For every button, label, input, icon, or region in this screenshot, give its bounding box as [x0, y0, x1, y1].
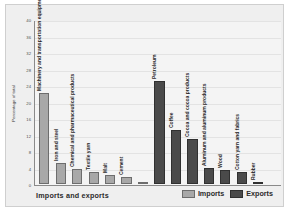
bar-category-label: Cocoa and cocoa products — [185, 72, 190, 136]
y-axis-tick-label: 16 — [26, 118, 31, 122]
bar[interactable] — [154, 81, 164, 184]
chart-plate: Percentage of total 0481216202428323640 … — [5, 4, 284, 207]
y-axis-tick-label: 36 — [26, 35, 31, 39]
y-axis-tick-label: 0 — [29, 184, 31, 188]
bar[interactable] — [105, 175, 115, 184]
y-axis-tick-label: 12 — [26, 134, 31, 138]
bar[interactable] — [220, 170, 230, 184]
bar[interactable] — [204, 168, 214, 185]
bar-slot: Cocoa and cocoa products — [187, 21, 197, 184]
x-axis-title: Imports and exports — [36, 191, 109, 200]
bar[interactable] — [89, 172, 99, 184]
legend-swatch — [182, 190, 195, 198]
y-axis-tick-label: 20 — [26, 101, 31, 105]
bar-category-label: Rubber — [251, 162, 256, 180]
bar-category-label: Aluminum and aluminum products — [202, 83, 207, 166]
bar[interactable] — [72, 169, 82, 184]
legend-label: Exports — [246, 190, 273, 197]
bar[interactable] — [39, 93, 49, 184]
bar-category-label: Chemical and pharmaceutical products — [70, 74, 75, 167]
bar-slot: Coffee — [171, 21, 181, 184]
bar[interactable] — [237, 172, 247, 184]
y-axis-tick-label: 28 — [26, 68, 31, 72]
bar[interactable] — [138, 182, 148, 184]
bar-category-label: Coffee — [169, 113, 174, 129]
bar[interactable] — [121, 177, 131, 184]
y-axis-tick-label: 32 — [26, 52, 31, 56]
bar-category-label: Textile yarn — [86, 142, 91, 169]
legend-label: Imports — [198, 190, 224, 197]
bar-category-label: Machinery and transportation equipment — [37, 0, 42, 91]
bar-slot: Petroleum — [154, 21, 164, 184]
y-axis-tick-label: 4 — [29, 167, 31, 171]
bar-slot: Machinery and transportation equipment — [39, 21, 49, 184]
bar-category-label: Cotton yarn and fabrics — [235, 114, 240, 170]
bar-category-label: Malt — [103, 163, 108, 173]
bar[interactable] — [187, 139, 197, 184]
bar-category-label: Cement — [119, 157, 124, 175]
bar-group: Machinery and transportation equipmentIr… — [36, 21, 281, 184]
y-axis: 0481216202428323640 — [6, 21, 34, 186]
legend-item[interactable]: Exports — [230, 190, 273, 198]
bar-category-label: Petroleum — [152, 54, 157, 78]
y-axis-tick-label: 8 — [29, 151, 31, 155]
chart-legend: ImportsExports — [182, 190, 273, 198]
bar-category-label: Wood — [218, 154, 223, 168]
plot-area: Machinery and transportation equipmentIr… — [34, 21, 281, 186]
bar-slot: Aluminum and aluminum products — [204, 21, 214, 184]
bar-slot: Malt — [105, 21, 115, 184]
bar-slot: Iron and steel — [56, 21, 66, 184]
legend-swatch — [230, 190, 243, 198]
bar[interactable] — [253, 182, 263, 184]
bar-slot: Textile yarn — [89, 21, 99, 184]
y-axis-tick-label: 24 — [26, 85, 31, 89]
bar-slot: Cement — [121, 21, 131, 184]
legend-item[interactable]: Imports — [182, 190, 224, 198]
chart-screenshot: Percentage of total 0481216202428323640 … — [0, 0, 289, 211]
bar[interactable] — [171, 130, 181, 184]
bar-slot: Wood — [220, 21, 230, 184]
bar-slot: Rubber — [253, 21, 263, 184]
bar-slot: Chemical and pharmaceutical products — [72, 21, 82, 184]
bar-category-label: Iron and steel — [54, 129, 59, 162]
bar-slot — [138, 21, 148, 184]
y-axis-tick-label: 40 — [26, 19, 31, 23]
bar-slot: Cotton yarn and fabrics — [237, 21, 247, 184]
bar[interactable] — [56, 163, 66, 184]
